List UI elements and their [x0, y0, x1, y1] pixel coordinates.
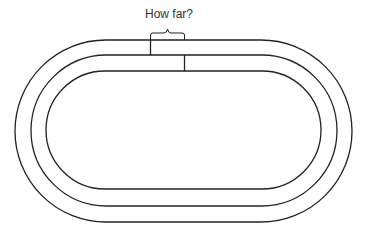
how-far-label: How far?: [139, 7, 199, 21]
oval-track-drawing: [0, 0, 369, 231]
curly-brace: [151, 29, 185, 40]
inner-track-line: [46, 71, 321, 189]
